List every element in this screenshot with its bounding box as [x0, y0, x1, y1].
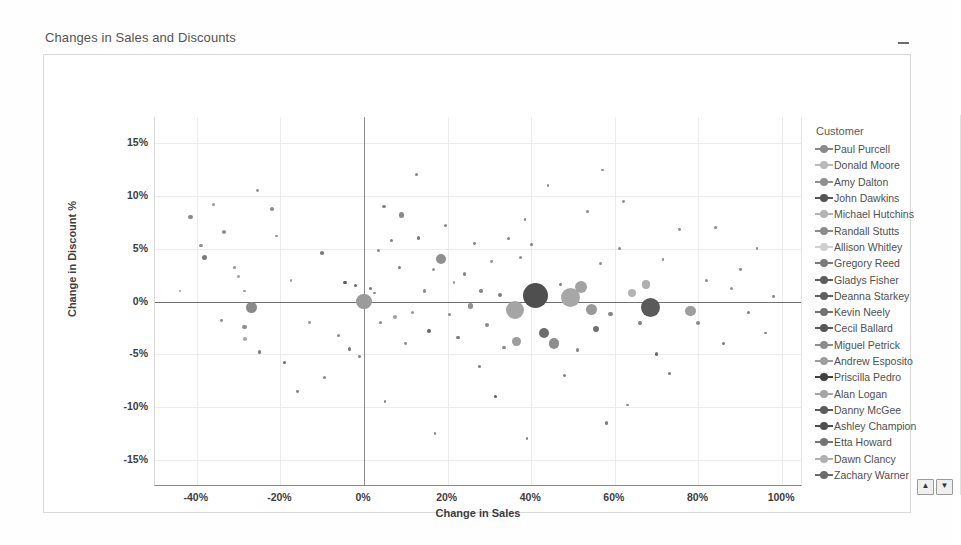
legend-scroll-down-button[interactable]: ▼ — [936, 479, 953, 495]
data-point[interactable] — [739, 268, 742, 271]
data-point[interactable] — [523, 283, 548, 308]
data-point[interactable] — [490, 260, 493, 263]
data-point[interactable] — [290, 279, 293, 282]
data-point[interactable] — [444, 224, 447, 227]
data-point[interactable] — [179, 290, 182, 293]
data-point[interactable] — [668, 372, 671, 375]
data-point[interactable] — [411, 311, 414, 314]
data-point[interactable] — [453, 281, 456, 284]
legend-item[interactable]: Randall Stutts — [814, 222, 954, 238]
data-point[interactable] — [398, 266, 401, 269]
legend-item[interactable]: Ashley Champion — [814, 418, 954, 434]
data-point[interactable] — [473, 242, 476, 245]
data-point[interactable] — [507, 237, 510, 240]
data-point[interactable] — [417, 236, 421, 240]
data-point[interactable] — [275, 235, 278, 238]
data-point[interactable] — [539, 328, 549, 338]
data-point[interactable] — [662, 258, 665, 261]
data-point[interactable] — [456, 336, 460, 340]
data-point[interactable] — [434, 432, 437, 435]
data-point[interactable] — [270, 207, 274, 211]
legend-item[interactable]: Miguel Petrick — [814, 337, 954, 353]
data-point[interactable] — [296, 390, 299, 393]
data-point[interactable] — [323, 376, 326, 379]
data-point[interactable] — [575, 281, 587, 293]
data-point[interactable] — [233, 266, 236, 269]
data-point[interactable] — [354, 284, 358, 288]
data-point[interactable] — [747, 311, 750, 314]
data-point[interactable] — [586, 304, 597, 315]
data-point[interactable] — [243, 337, 247, 341]
data-point[interactable] — [222, 230, 226, 234]
data-point[interactable] — [212, 203, 215, 206]
data-point[interactable] — [202, 255, 207, 260]
data-point[interactable] — [519, 256, 522, 259]
data-point[interactable] — [678, 228, 681, 231]
data-point[interactable] — [502, 346, 505, 349]
data-point[interactable] — [384, 400, 387, 403]
data-point[interactable] — [423, 289, 426, 292]
data-point[interactable] — [393, 315, 397, 319]
data-point[interactable] — [549, 338, 559, 348]
data-point[interactable] — [479, 289, 482, 292]
data-point[interactable] — [608, 312, 612, 316]
data-point[interactable] — [308, 321, 311, 324]
data-point[interactable] — [524, 218, 527, 221]
legend-scroll-controls[interactable]: ▲ ▼ — [917, 479, 953, 495]
data-point[interactable] — [427, 329, 431, 333]
data-point[interactable] — [358, 355, 361, 358]
data-point[interactable] — [379, 321, 382, 324]
legend-item[interactable]: John Dawkins — [814, 190, 954, 206]
data-point[interactable] — [373, 292, 376, 295]
data-point[interactable] — [526, 437, 528, 439]
data-point[interactable] — [256, 189, 259, 192]
data-point[interactable] — [436, 254, 446, 264]
data-point[interactable] — [705, 279, 708, 282]
data-point[interactable] — [448, 313, 451, 316]
data-point[interactable] — [337, 334, 340, 337]
data-point[interactable] — [642, 280, 650, 288]
data-point[interactable] — [348, 347, 351, 350]
legend-item[interactable]: Danny McGee — [814, 402, 954, 418]
data-point[interactable] — [601, 169, 603, 171]
data-point[interactable] — [356, 294, 372, 310]
data-point[interactable] — [220, 319, 223, 322]
legend-item[interactable]: Andrew Esposito — [814, 353, 954, 369]
data-point[interactable] — [618, 247, 621, 250]
data-point[interactable] — [696, 321, 700, 325]
data-point[interactable] — [404, 342, 407, 345]
data-point[interactable] — [559, 283, 562, 286]
data-point[interactable] — [622, 200, 625, 203]
data-point[interactable] — [463, 272, 466, 275]
data-point[interactable] — [485, 323, 489, 327]
data-point[interactable] — [641, 298, 660, 317]
data-point[interactable] — [512, 337, 520, 345]
legend-item[interactable]: Donald Moore — [814, 157, 954, 173]
data-point[interactable] — [415, 173, 418, 176]
data-point[interactable] — [243, 290, 246, 293]
data-point[interactable] — [586, 210, 589, 213]
legend-item[interactable]: Michael Hutchins — [814, 206, 954, 222]
data-point[interactable] — [468, 303, 474, 309]
data-point[interactable] — [547, 184, 550, 187]
data-point[interactable] — [685, 306, 696, 317]
minimize-icon[interactable] — [898, 38, 910, 48]
data-point[interactable] — [283, 361, 286, 364]
data-point[interactable] — [764, 332, 767, 335]
data-point[interactable] — [390, 239, 393, 242]
data-point[interactable] — [506, 301, 524, 319]
legend-item[interactable]: Amy Dalton — [814, 174, 954, 190]
data-point[interactable] — [576, 348, 579, 351]
data-point[interactable] — [714, 226, 717, 229]
data-point[interactable] — [382, 205, 385, 208]
data-point[interactable] — [730, 287, 733, 290]
data-point[interactable] — [722, 342, 725, 345]
plot-area[interactable] — [154, 117, 802, 486]
data-point[interactable] — [237, 275, 240, 278]
legend-scroll-up-button[interactable]: ▲ — [917, 479, 934, 495]
data-point[interactable] — [638, 321, 642, 325]
legend-item[interactable]: Gladys Fisher — [814, 271, 954, 287]
data-point[interactable] — [655, 352, 659, 356]
data-point[interactable] — [628, 289, 636, 297]
data-point[interactable] — [563, 374, 566, 377]
